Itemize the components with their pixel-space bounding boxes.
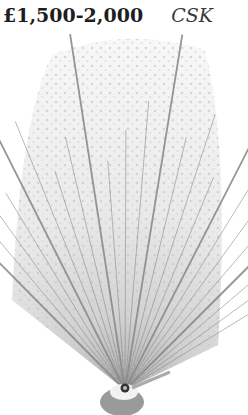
lot-caption: £1,500-2,000 CSK xyxy=(3,4,213,26)
fan-photograph xyxy=(0,28,248,415)
auction-house-code: CSK xyxy=(171,4,213,26)
clipped-previous-text-line xyxy=(0,0,248,3)
price-estimate: £1,500-2,000 xyxy=(3,4,143,26)
fan-illustration xyxy=(0,28,248,415)
